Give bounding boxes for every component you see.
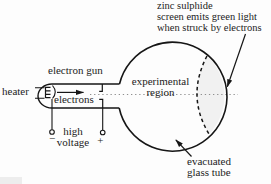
experimental-region-label: experimental region — [123, 76, 198, 97]
arrow-to-screen-icon — [227, 34, 245, 87]
zinc-sulphide-note-line1: zinc sulphide — [157, 0, 262, 11]
zinc-sulphide-note: zinc sulphide screen emits green light w… — [157, 0, 262, 33]
electrons-label: electrons — [54, 94, 94, 105]
evacuated-glass-tube-line2: glass tube — [187, 167, 231, 179]
anode-bottom — [99, 99, 103, 108]
anode-top — [99, 84, 102, 91]
electron-gun-label: electron gun — [48, 65, 103, 76]
zinc-sulphide-note-line2: screen emits green light — [157, 11, 262, 22]
experimental-region-line2: region — [123, 87, 198, 98]
physics-diagram: − + zinc sulphide screen emits green lig… — [0, 0, 271, 184]
zinc-sulphide-note-line3: when struck by electrons — [157, 22, 262, 33]
high-voltage-label: high voltage — [50, 126, 96, 149]
evacuated-glass-tube-label: evacuated glass tube — [187, 156, 231, 179]
heater-filament — [46, 87, 51, 98]
heater-label: heater — [2, 86, 29, 97]
plus-sign: + — [97, 134, 103, 146]
high-voltage-line2: voltage — [50, 137, 96, 148]
experimental-region-line1: experimental — [123, 76, 198, 87]
scan-artifact — [0, 177, 22, 184]
